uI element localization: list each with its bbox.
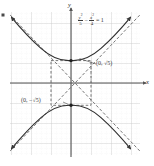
equation-minus: − xyxy=(85,17,88,23)
equation-term-x: x2 4 xyxy=(89,15,94,27)
hyperbola-figure: y2 5 − x2 4 = 1 y²/5 − x²/4 = 1 (0, √5) … xyxy=(0,0,154,166)
x-axis-label: x xyxy=(146,79,149,86)
lower-vertex-label: (0, −√5) xyxy=(21,97,41,103)
upper-vertex-label: (0, √5) xyxy=(96,60,112,66)
y-axis-label: y xyxy=(68,2,71,9)
graph-canvas xyxy=(0,0,154,166)
lower-vertex-text: (0, −√5) xyxy=(21,97,41,103)
equation-annotation: y2 5 − x2 4 = 1 y²/5 − x²/4 = 1 xyxy=(78,15,104,27)
equation-term-y: y2 5 xyxy=(78,15,83,27)
equation-equals-one: = 1 xyxy=(96,17,104,23)
edge-mark xyxy=(2,14,5,17)
upper-vertex-text: (0, √5) xyxy=(96,60,112,66)
